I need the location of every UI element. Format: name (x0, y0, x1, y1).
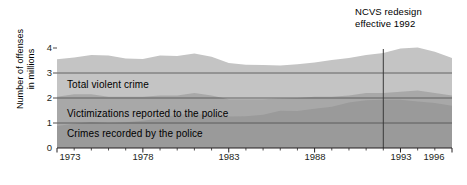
y-tick-4: 4 (38, 42, 52, 53)
annotation-ncvs-redesign: NCVS redesign effective 1992 (355, 6, 422, 30)
y-axis-title: Number of offenses in millions (14, 9, 38, 129)
x-tick-1983: 1983 (218, 151, 239, 162)
x-tick-1973: 1973 (59, 151, 80, 162)
x-tick-1988: 1988 (304, 151, 325, 162)
y-axis-tick-labels: 4 3 2 1 0 (38, 0, 52, 185)
series-label-total-violent-crime: Total violent crime (67, 79, 149, 90)
x-tick-1978: 1978 (132, 151, 153, 162)
x-tick-1996: 1996 (423, 151, 444, 162)
y-tick-3: 3 (38, 67, 52, 78)
y-tick-0: 0 (38, 142, 52, 153)
series-label-crimes-recorded: Crimes recorded by the police (67, 128, 203, 139)
y-tick-2: 2 (38, 92, 52, 103)
series-label-victimizations-reported: Victimizations reported to the police (67, 108, 228, 119)
y-tick-1: 1 (38, 117, 52, 128)
x-tick-1993: 1993 (390, 151, 411, 162)
crime-statistics-area-chart: NCVS redesign effective 1992 Number of o… (0, 0, 467, 185)
